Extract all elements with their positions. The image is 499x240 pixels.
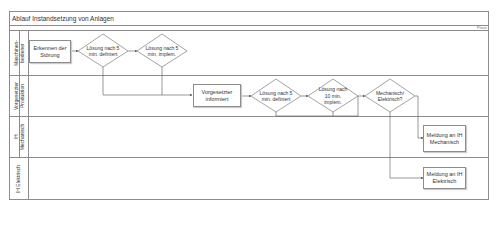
decision-loesung1-implem: Lösung nach 5 min. implem. <box>145 43 179 59</box>
node-vorgesetzter-informiert: Vorgesetzter informiert <box>193 84 241 107</box>
decision-loesung2-definiert: Lösung nach 5 min. definiert <box>259 88 293 104</box>
node-erkennen: Erkennen der Störung <box>29 40 71 63</box>
node-meldung-ih-elektrisch: Meldung an IH Elektrisch <box>423 167 466 189</box>
decision-loesung2-implem: Lösung nach 10 min. implem. <box>316 85 350 107</box>
decision-loesung1-definiert: Lösung nach 5 min. definiert <box>86 43 120 59</box>
decision-mechanisch-elektrisch: Mechanisch/ Elektrisch? <box>372 87 408 105</box>
node-meldung-ih-mechanisch: Meldung an IH Mechanisch <box>423 125 466 152</box>
